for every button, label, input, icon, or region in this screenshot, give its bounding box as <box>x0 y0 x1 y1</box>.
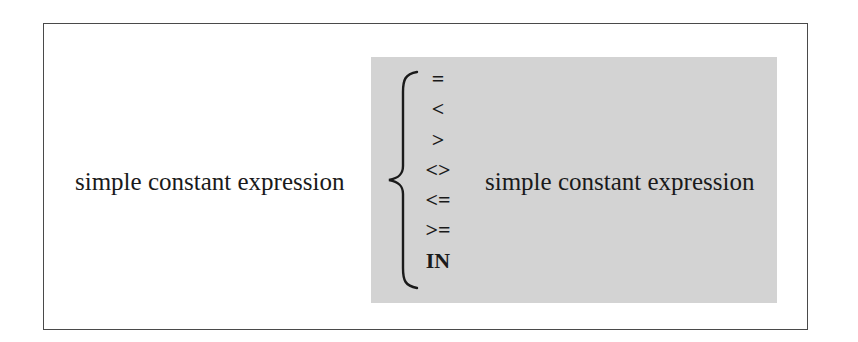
left-operand-label: simple constant expression <box>75 168 344 196</box>
operator-greater-than: > <box>418 125 458 155</box>
operator-less-than: < <box>418 94 458 124</box>
operator-equals: = <box>418 64 458 94</box>
operator-less-equal: <= <box>418 185 458 215</box>
operator-greater-equal: >= <box>418 215 458 245</box>
operator-list: = < > <> <= >= IN <box>418 64 458 276</box>
right-operand-label: simple constant expression <box>485 168 754 196</box>
left-brace-icon <box>385 70 421 290</box>
operator-in: IN <box>418 246 458 276</box>
operator-not-equal: <> <box>418 155 458 185</box>
